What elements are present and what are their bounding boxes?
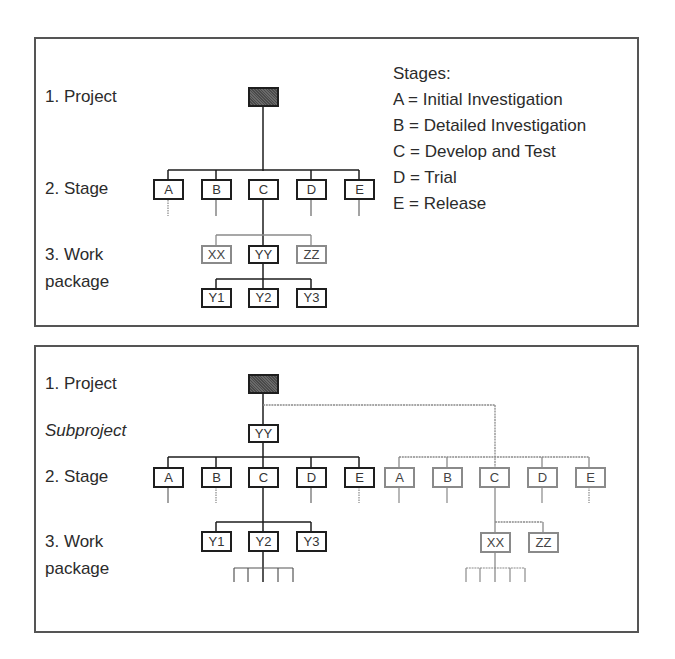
work-package-node-y3: Y3 — [296, 531, 327, 552]
level-label-work: 3. Work — [45, 532, 103, 552]
other-stage-node-d: D — [527, 467, 558, 488]
legend-item: D = Trial — [393, 168, 457, 188]
work-package-node-zz: ZZ — [296, 245, 327, 264]
work-package-node-xx: XX — [480, 532, 511, 553]
sub-package-node-y1: Y1 — [201, 288, 232, 308]
legend-item: A = Initial Investigation — [393, 90, 563, 110]
level-label-project: 1. Project — [45, 374, 117, 394]
subproject-node-yy: YY — [248, 424, 279, 443]
level-label-stage: 2. Stage — [45, 179, 108, 199]
level-label-project: 1. Project — [45, 87, 117, 107]
legend-item: C = Develop and Test — [393, 142, 556, 162]
work-package-node-yy: YY — [248, 245, 279, 264]
project-node — [248, 87, 279, 107]
stage-node-d: D — [296, 179, 327, 200]
other-stage-node-e: E — [575, 467, 606, 488]
project-node — [248, 374, 279, 394]
stage-node-d: D — [296, 467, 327, 488]
legend-title: Stages: — [393, 64, 451, 84]
level-label-package: package — [45, 272, 109, 292]
sub-package-node-y2: Y2 — [248, 288, 279, 308]
level-label-stage: 2. Stage — [45, 467, 108, 487]
stage-node-c: C — [248, 467, 279, 488]
other-stage-node-b: B — [432, 467, 463, 488]
other-stage-node-c: C — [479, 467, 510, 488]
work-package-node-y2: Y2 — [248, 531, 279, 552]
other-stage-node-a: A — [384, 467, 415, 488]
level-label-package: package — [45, 559, 109, 579]
work-package-node-y1: Y1 — [201, 531, 232, 552]
level-label-subproject: Subproject — [45, 421, 126, 441]
stage-node-c: C — [248, 179, 279, 200]
stage-node-b: B — [201, 179, 232, 200]
work-package-node-xx: XX — [201, 245, 232, 264]
sub-package-node-y3: Y3 — [296, 288, 327, 308]
work-package-node-zz: ZZ — [528, 532, 559, 553]
stage-node-b: B — [201, 467, 232, 488]
legend-item: B = Detailed Investigation — [393, 116, 586, 136]
level-label-work: 3. Work — [45, 245, 103, 265]
stage-node-a: A — [153, 179, 184, 200]
stage-node-e: E — [344, 467, 375, 488]
stage-node-e: E — [344, 179, 375, 200]
legend-item: E = Release — [393, 194, 486, 214]
stage-node-a: A — [153, 467, 184, 488]
